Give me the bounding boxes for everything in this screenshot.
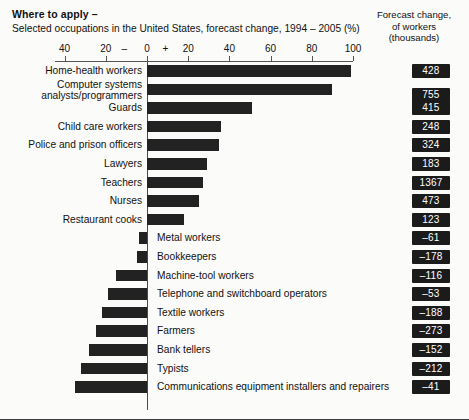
x-axis-tick-labels: 4020–0+20406080100 — [0, 43, 469, 57]
x-axis-tick-label: 60 — [265, 43, 276, 54]
bar[interactable] — [147, 177, 203, 189]
x-axis-tick-mark — [147, 56, 148, 61]
value-badge: –116 — [412, 269, 450, 283]
x-axis-tick-label: + — [163, 43, 169, 54]
value-badge: 473 — [412, 194, 450, 208]
bar-row[interactable]: Guards415 — [0, 102, 469, 121]
bar-row[interactable]: Farmers–273 — [0, 325, 469, 344]
value-badge: 324 — [412, 138, 450, 152]
bar[interactable] — [75, 381, 147, 393]
value-badge: 183 — [412, 157, 450, 171]
bar-category-label: Home-health workers — [45, 65, 142, 77]
bar-category-label: Teachers — [101, 177, 142, 189]
x-axis-tick-mark — [106, 56, 107, 61]
bar[interactable] — [139, 232, 147, 244]
bar-category-label-line1: Farmers — [157, 325, 195, 337]
bar[interactable] — [147, 102, 252, 114]
bar[interactable] — [81, 363, 147, 375]
bar-row[interactable]: Computer systemsanalysts/programmers755 — [0, 84, 469, 103]
value-column-header-line2: of workers — [365, 21, 463, 33]
chart-subtitle: Selected occupations in the United State… — [12, 22, 372, 35]
bar-category-label: Typists — [157, 363, 189, 375]
bar-category-label-line1: Communications equipment installers and … — [157, 381, 389, 393]
bar-category-label: Restaurant cooks — [63, 214, 142, 226]
x-axis-tick-mark — [312, 56, 313, 61]
x-axis-tick-mark — [65, 56, 66, 61]
value-badge: –53 — [412, 287, 450, 301]
bar-row[interactable]: Machine-tool workers–116 — [0, 270, 469, 289]
x-axis-tick-label: – — [122, 43, 128, 54]
bar[interactable] — [147, 195, 199, 207]
value-badge: 415 — [412, 101, 450, 115]
bar-category-label-line1: Nurses — [110, 195, 142, 207]
bar[interactable] — [147, 158, 207, 170]
value-badge: –152 — [412, 343, 450, 357]
bar[interactable] — [147, 139, 219, 151]
bar[interactable] — [96, 325, 148, 337]
bar[interactable] — [89, 344, 147, 356]
bar-category-label: Guards — [109, 102, 142, 114]
bar[interactable] — [108, 288, 147, 300]
bar-category-label-line1: Home-health workers — [45, 65, 142, 77]
x-axis-tick-label: 100 — [345, 43, 362, 54]
bar-row[interactable]: Nurses473 — [0, 195, 469, 214]
bar-category-label-line1: Machine-tool workers — [157, 270, 254, 282]
bar-row[interactable]: Bank tellers–152 — [0, 344, 469, 363]
bar-category-label: Farmers — [157, 325, 195, 337]
bar-category-label: Telephone and switchboard operators — [157, 288, 327, 300]
bar-row[interactable]: Telephone and switchboard operators–53 — [0, 288, 469, 307]
x-axis-tick-label: 20 — [100, 43, 111, 54]
value-badge: 755 — [412, 88, 450, 102]
x-axis-tick-label: 20 — [183, 43, 194, 54]
x-axis-tick-label: 40 — [224, 43, 235, 54]
bar-category-label: Nurses — [110, 195, 142, 207]
bar-category-label: Computer systemsanalysts/programmers — [41, 79, 142, 102]
bar-category-label-line1: Restaurant cooks — [63, 214, 142, 226]
bar[interactable] — [102, 307, 147, 319]
bar[interactable] — [147, 121, 221, 133]
value-badge: 1367 — [412, 176, 450, 190]
chart-figure: Where to apply – Selected occupations in… — [0, 0, 469, 420]
bar-category-label-line1: Metal workers — [157, 232, 220, 244]
bar-category-label-line1: Police and prison officers — [28, 139, 142, 151]
bar-category-label-line1: Child care workers — [58, 121, 142, 133]
value-badge: –212 — [412, 362, 450, 376]
bar-row[interactable]: Textile workers–188 — [0, 307, 469, 326]
value-badge: –178 — [412, 250, 450, 264]
bar-row[interactable]: Restaurant cooks123 — [0, 214, 469, 233]
plot-area: Home-health workers428Computer systemsan… — [0, 62, 469, 410]
value-column-header: Forecast change, of workers (thousands) — [365, 9, 463, 44]
bar-category-label-line1: Lawyers — [104, 158, 142, 170]
chart-title: Where to apply – — [12, 8, 372, 21]
value-badge: –188 — [412, 306, 450, 320]
bar-row[interactable]: Child care workers248 — [0, 121, 469, 140]
value-column-header-line1: Forecast change, — [365, 9, 463, 21]
bar[interactable] — [147, 84, 332, 96]
chart-header: Where to apply – Selected occupations in… — [12, 8, 372, 35]
bar-row[interactable]: Police and prison officers324 — [0, 139, 469, 158]
bar-row[interactable]: Communications equipment installers and … — [0, 381, 469, 400]
bar-row[interactable]: Lawyers183 — [0, 158, 469, 177]
bar[interactable] — [147, 214, 184, 226]
bar-category-label-line1: Teachers — [101, 177, 142, 189]
bar[interactable] — [147, 65, 351, 77]
bar-row[interactable]: Typists–212 — [0, 363, 469, 382]
x-axis-tick-mark — [229, 56, 230, 61]
value-badge: –273 — [412, 324, 450, 338]
bar-row[interactable]: Metal workers–61 — [0, 232, 469, 251]
bar[interactable] — [116, 270, 147, 282]
bar-category-label-line1: Telephone and switchboard operators — [157, 288, 327, 300]
bar[interactable] — [137, 251, 147, 263]
bar-category-label: Lawyers — [104, 158, 142, 170]
value-badge: 123 — [412, 213, 450, 227]
bar-category-label-line1: Textile workers — [157, 307, 224, 319]
bar-row[interactable]: Teachers1367 — [0, 177, 469, 196]
x-axis-tick-label: 40 — [59, 43, 70, 54]
value-badge: 248 — [412, 120, 450, 134]
x-axis-tick-mark — [188, 56, 189, 61]
x-axis-tick-mark — [271, 56, 272, 61]
bar-row[interactable]: Bookkeepers–178 — [0, 251, 469, 270]
x-axis-tick-label: 0 — [144, 43, 150, 54]
bar-category-label: Bookkeepers — [157, 251, 216, 263]
bar-category-label: Textile workers — [157, 307, 224, 319]
